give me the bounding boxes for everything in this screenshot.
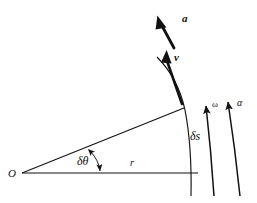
angular-acceleration-label: α [237, 98, 242, 108]
angular-acceleration-arrow [228, 102, 240, 196]
angular-velocity-label: ω [212, 100, 218, 109]
acceleration-vector [156, 16, 174, 49]
circular-motion-figure: O r δθ δs v a ω α [0, 0, 257, 203]
acceleration-label: a [182, 13, 188, 24]
velocity-label: v [174, 52, 179, 63]
angular-displacement-label: δθ [77, 155, 88, 167]
radius-label: r [130, 158, 134, 168]
figure-canvas [0, 0, 257, 203]
upper-radius [22, 108, 184, 173]
arc-length-label: δs [190, 130, 200, 142]
origin-label: O [8, 168, 16, 179]
angular-velocity-arrow [206, 106, 214, 196]
angle-arc-marker [89, 150, 100, 171]
